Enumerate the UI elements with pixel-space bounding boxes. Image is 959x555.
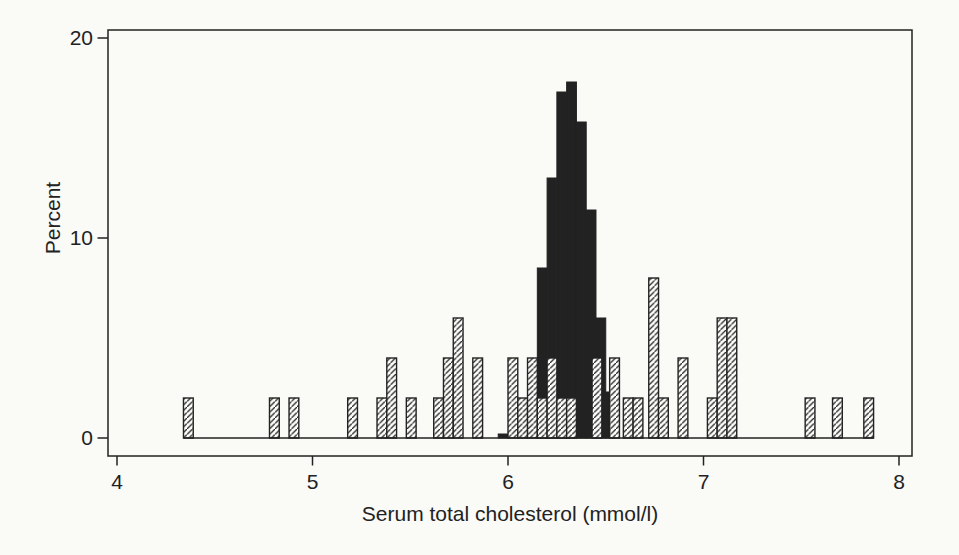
solid-bar (567, 82, 577, 438)
hatched-bar (864, 398, 874, 438)
hatched-bar (453, 318, 463, 438)
hatched-bar (289, 398, 299, 438)
hatched-bar (649, 278, 659, 438)
hatched-bar (727, 318, 737, 438)
y-axis-title: Percent (41, 182, 64, 255)
bars-layer (183, 82, 873, 438)
x-tick-label: 4 (111, 470, 123, 493)
y-tick-label: 10 (70, 226, 93, 249)
x-axis-title: Serum total cholesterol (mmol/l) (362, 502, 658, 525)
hatched-bar (592, 358, 602, 438)
y-tick-label: 0 (81, 426, 93, 449)
x-tick-label: 8 (893, 470, 905, 493)
y-tick-label: 20 (70, 26, 93, 49)
hatched-bar (508, 358, 518, 438)
hatched-bar (623, 398, 633, 438)
hatched-bar (406, 398, 416, 438)
solid-bar (557, 92, 567, 438)
figure: 45678 01020 Percent Serum total choleste… (0, 0, 959, 555)
histogram-chart: 45678 01020 Percent Serum total choleste… (0, 0, 959, 555)
hatched-bar (528, 358, 538, 438)
hatched-bar (833, 398, 843, 438)
hatched-bar (610, 358, 620, 438)
hatched-bar (557, 398, 567, 438)
hatched-bar (348, 398, 358, 438)
y-axis: 01020 (70, 26, 108, 449)
hatched-bar (707, 398, 717, 438)
hatched-bar (183, 398, 193, 438)
solid-bar (576, 122, 586, 438)
x-tick-label: 6 (502, 470, 514, 493)
hatched-bar (443, 358, 453, 438)
hatched-bar (537, 398, 547, 438)
hatched-bar (717, 318, 727, 438)
hatched-bar (387, 358, 397, 438)
hatched-bar (805, 398, 815, 438)
hatched-bar (633, 398, 643, 438)
x-tick-label: 5 (307, 470, 319, 493)
hatched-bar (269, 398, 279, 438)
hatched-bar (434, 398, 444, 438)
hatched-bar (518, 398, 528, 438)
x-tick-label: 7 (698, 470, 710, 493)
hatched-bar (678, 358, 688, 438)
hatched-bar (473, 358, 483, 438)
hatched-bar (377, 398, 387, 438)
hatched-bar (659, 398, 669, 438)
hatched-bar (547, 358, 557, 438)
x-axis: 45678 (111, 456, 905, 493)
hatched-bar (567, 398, 577, 438)
